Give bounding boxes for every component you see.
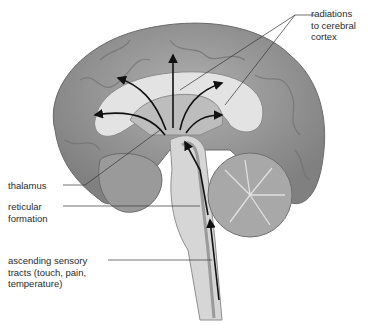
label-reticular-formation: reticular formation — [8, 201, 48, 224]
label-thalamus: thalamus — [8, 180, 47, 192]
label-ascending-sensory-tracts: ascending sensory tracts (touch, pain, t… — [8, 255, 87, 290]
label-radiations-to-cerebral-cortex: radiations to cerebral cortex — [311, 8, 356, 43]
